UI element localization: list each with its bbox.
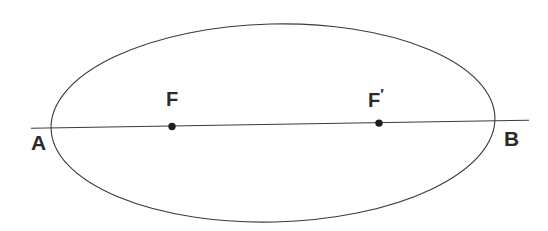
focus-label-f-prime-letter: F xyxy=(368,89,380,111)
ellipse-diagram-canvas xyxy=(0,0,548,231)
prime-mark-icon: ′ xyxy=(380,85,384,102)
major-axis-line xyxy=(31,120,529,128)
vertex-label-b: B xyxy=(504,128,519,149)
vertex-label-a: A xyxy=(31,132,46,153)
focus-point-f-prime xyxy=(375,119,382,126)
ellipse-outline xyxy=(49,19,498,228)
ellipse-figure: A B F F′ xyxy=(0,0,548,231)
focus-label-f: F xyxy=(166,89,178,109)
focus-point-f xyxy=(168,123,175,130)
focus-label-f-prime: F′ xyxy=(368,86,384,110)
